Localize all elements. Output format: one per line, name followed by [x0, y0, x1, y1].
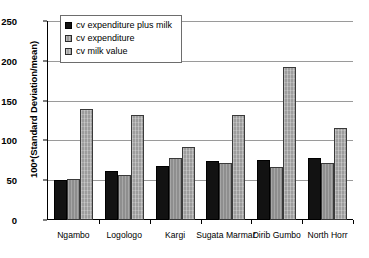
- bar-group: [308, 21, 347, 220]
- bar: [206, 161, 219, 220]
- x-axis-tick-label: Dirib Gumbo: [253, 230, 301, 240]
- x-axis-tick-label: Logologo: [107, 230, 142, 240]
- y-axis-tick-label: 100: [0, 135, 17, 146]
- bar: [182, 147, 195, 220]
- bar: [80, 109, 93, 220]
- y-axis-tick-label: 150: [0, 95, 17, 106]
- bar: [308, 158, 321, 220]
- bar: [283, 67, 296, 220]
- bar: [118, 175, 131, 220]
- x-axis-tick-label: North Horr: [308, 230, 348, 240]
- x-axis-tick-label: Ngambo: [57, 230, 89, 240]
- y-axis-tick-label: 0: [0, 215, 17, 226]
- x-axis-tick-mark: [302, 220, 303, 224]
- legend-item: cv expenditure plus milk: [65, 19, 177, 31]
- bar-group: [206, 21, 245, 220]
- y-axis-tick-label: 200: [0, 55, 17, 66]
- bar: [257, 160, 270, 220]
- legend-label: cv expenditure: [76, 33, 135, 43]
- bar: [156, 166, 169, 220]
- bar: [321, 163, 334, 220]
- bar: [54, 180, 67, 220]
- y-axis-tick-label: 250: [0, 16, 17, 27]
- y-axis-tick-label: 50: [0, 175, 17, 186]
- bar: [232, 115, 245, 220]
- bar: [334, 128, 347, 220]
- bar: [219, 163, 232, 220]
- x-axis-tick-label: Kargi: [165, 230, 185, 240]
- y-axis-title: 100*(Standard Deviation/mean): [28, 25, 39, 195]
- x-axis-tick-label: Sugata Marmar: [196, 230, 255, 240]
- x-axis-tick-mark: [150, 220, 151, 224]
- legend-swatch-icon: [65, 35, 72, 42]
- bar-group: [257, 21, 296, 220]
- bar: [67, 179, 80, 220]
- x-axis-tick-mark: [353, 220, 354, 224]
- bar: [270, 167, 283, 220]
- legend-item: cv expenditure: [65, 32, 177, 44]
- x-axis-tick-mark: [99, 220, 100, 224]
- x-axis-tick-mark: [251, 220, 252, 224]
- bar-chart: 100*(Standard Deviation/mean) 0501001502…: [0, 0, 369, 258]
- legend-swatch-icon: [65, 22, 72, 29]
- chart-legend: cv expenditure plus milkcv expenditurecv…: [60, 15, 182, 63]
- legend-label: cv expenditure plus milk: [76, 20, 172, 30]
- legend-label: cv milk value: [76, 46, 128, 56]
- legend-swatch-icon: [65, 48, 72, 55]
- legend-item: cv milk value: [65, 45, 177, 57]
- bar: [169, 158, 182, 220]
- bar: [105, 171, 118, 220]
- bar: [131, 115, 144, 220]
- x-axis-tick-mark: [201, 220, 202, 224]
